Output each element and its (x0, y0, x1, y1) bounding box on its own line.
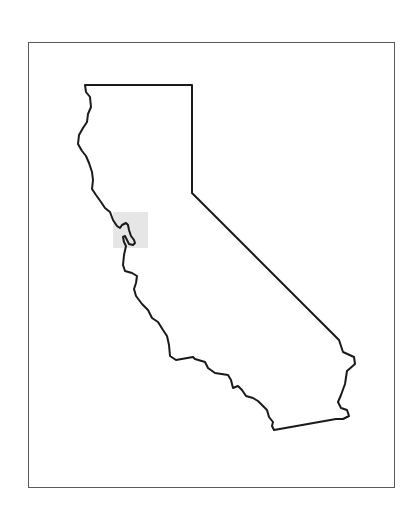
california-map (0, 0, 420, 513)
highlight-region-bay-area[interactable] (113, 212, 148, 248)
california-outline (78, 85, 355, 430)
map-canvas: California San Francisco Bay Area (0, 0, 420, 513)
